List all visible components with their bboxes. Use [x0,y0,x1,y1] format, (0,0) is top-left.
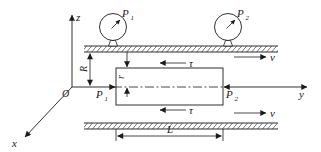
x-axis-label: x [11,137,17,149]
pressure-1-label: P 1 [95,88,108,103]
pipe-flow-diagram: z x y O P 1 P 2 P 1 P 2 R r τ τ v v L [0,0,321,152]
radius-r-label: r [115,75,126,79]
pipe-wall-top [84,46,278,52]
velocity-label-top: v [270,51,275,63]
length-label: L [166,123,173,135]
fluid-element-rect [116,68,223,105]
pipe-wall-bottom [84,123,278,129]
diagram-stage: z x y O P 1 P 2 P 1 P 2 R r τ τ v v L [0,0,321,152]
pressure-2-label-sub: 2 [235,95,239,103]
wall-hatch-top [84,46,278,52]
radius-R-label: R [78,66,89,73]
gauge-1-label-sub: 1 [131,14,135,22]
velocity-label-bottom: v [270,107,275,119]
gauge-1-label-base: P [121,7,129,19]
gauge-2-label-base: P [236,7,244,19]
gauge-2-label-sub: 2 [246,14,250,22]
gauge-2-stem [224,41,233,47]
wall-hatch-bottom [84,123,278,129]
y-axis-label: y [298,88,304,100]
pressure-2-label-base: P [225,88,233,100]
pressure-1-label-sub: 1 [105,95,109,103]
shear-label-bottom: τ [189,104,194,116]
z-axis-label: z [75,11,81,23]
pressure-2-label: P 2 [225,88,239,103]
gauge-1-stem [109,41,118,47]
shear-label-top: τ [189,57,194,69]
origin-label: O [62,88,69,99]
pressure-1-label-base: P [95,88,103,100]
